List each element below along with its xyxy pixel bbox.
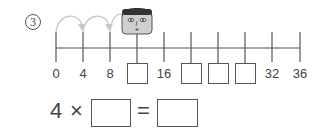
equation-equals-sign: =	[137, 98, 150, 124]
answer-box-28[interactable]	[235, 63, 256, 84]
tick-label-8: 8	[106, 66, 113, 82]
equation-times-sign: ×	[70, 98, 83, 124]
tick-label-32: 32	[265, 66, 279, 82]
answer-box-12[interactable]	[127, 63, 148, 84]
equation-multiplicand: 4	[50, 98, 62, 124]
answer-box-24[interactable]	[208, 63, 229, 84]
jump-arrows	[56, 14, 124, 32]
answer-box-20[interactable]	[181, 63, 202, 84]
tick-label-36: 36	[293, 66, 307, 82]
equation-blank-product[interactable]	[157, 99, 198, 127]
math-problem: 3	[0, 0, 319, 138]
equation-blank-factor[interactable]	[91, 99, 131, 127]
tick-label-0: 0	[52, 66, 59, 82]
face-icon	[122, 8, 152, 34]
tick-label-4: 4	[79, 66, 86, 82]
tick-label-16: 16	[157, 66, 171, 82]
